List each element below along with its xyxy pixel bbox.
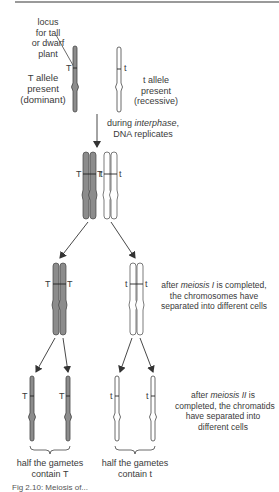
gametes-recessive-label: half the gametes contain t xyxy=(95,458,175,479)
chromosome-recessive-top xyxy=(116,47,123,112)
allele-T-gamete-1: T xyxy=(22,392,28,401)
locus-label: locus for tall or dwarf plant xyxy=(20,17,76,59)
arrow-meiosis2-rec-left xyxy=(120,338,132,372)
arrow-meiosis1-right xyxy=(111,222,135,258)
chromosome-recessive-meiosis1 xyxy=(129,263,144,335)
allele-T-top: T xyxy=(66,64,72,73)
allele-t-gamete-2: t xyxy=(146,392,149,401)
allele-t-rep-right: t xyxy=(119,170,122,179)
chromosome-dominant-replicated xyxy=(82,152,97,219)
allele-T-m1-right: T xyxy=(67,280,73,289)
allele-T-rep-left: T xyxy=(76,170,82,179)
arrow-meiosis1-left xyxy=(60,222,88,258)
gamete-recessive-1 xyxy=(114,376,121,441)
brace-dominant xyxy=(30,446,70,454)
brace-recessive xyxy=(115,446,155,454)
chromosome-recessive-replicated xyxy=(103,152,118,219)
arrow-meiosis2-dom-right xyxy=(63,338,68,372)
interphase-label: during interphase, DNA replicates xyxy=(104,118,182,139)
gamete-dominant-2 xyxy=(65,376,72,441)
chromosome-dominant-meiosis1 xyxy=(52,263,67,335)
allele-t-m1-left: t xyxy=(125,280,128,289)
meiosis2-label: after meiosis II is completed, the chrom… xyxy=(175,390,271,432)
allele-t-top: t xyxy=(124,64,127,73)
gamete-recessive-2 xyxy=(150,376,157,441)
figure-caption: Fig 2.10: Meiosis of... xyxy=(12,483,88,492)
allele-T-m1-left: T xyxy=(45,280,51,289)
meiosis1-label: after meiosis I is completed, the chromo… xyxy=(153,280,275,312)
dominant-allele-label: T allele present (dominant) xyxy=(16,72,70,105)
allele-t-m1-right: t xyxy=(145,280,148,289)
allele-T-gamete-2: T xyxy=(59,392,65,401)
allele-t-rep-left: t xyxy=(100,170,103,179)
arrow-meiosis2-dom-left xyxy=(36,338,55,372)
recessive-allele-label: t allele present (recessive) xyxy=(128,75,184,107)
gamete-dominant-1 xyxy=(29,376,36,441)
arrow-meiosis2-rec-right xyxy=(140,338,153,372)
allele-t-gamete-1: t xyxy=(110,392,113,401)
gametes-dominant-label: half the gametes contain T xyxy=(10,458,90,479)
